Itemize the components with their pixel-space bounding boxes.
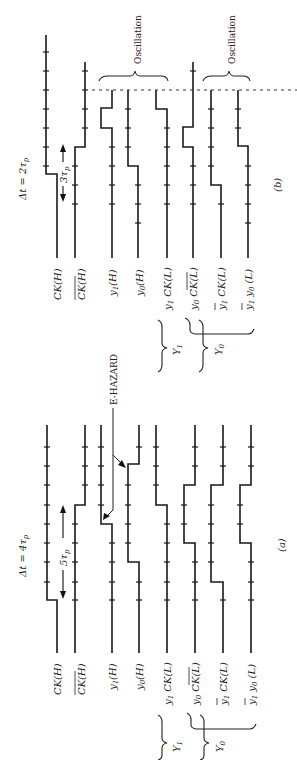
wave-b-y1bary0-l: [238, 90, 248, 258]
wave-b-y1ck-l: [156, 90, 167, 258]
wave-a-ckbar-h: [75, 425, 85, 653]
signal-labels-a: CK(H) CK(H) y1(H) y0(H) y1 CK(L) y0 CK(L…: [52, 662, 259, 706]
delta-t-label-a: Δt = 4τp: [17, 534, 30, 578]
wave-a-ck-h: [47, 425, 57, 653]
svg-text:Y1: Y1: [171, 344, 184, 355]
delta-t-label-b: Δt = 2τp: [17, 157, 30, 201]
wave-b-y1barck-l: [211, 90, 221, 258]
svg-text:y1 y0 (L): y1 y0 (L): [243, 269, 256, 311]
wave-a-y0-h: [128, 425, 139, 653]
svg-text:CK(H): CK(H): [52, 268, 63, 300]
oscillation-label-1: Oscillation: [133, 15, 143, 64]
svg-text:y0 CK(L): y0 CK(L): [190, 662, 203, 706]
panel-a: E-HAZARD 5τp Δt = 4τp (a) CK(H) CK(H) y1…: [17, 354, 287, 760]
wave-a-y1bary0-l: [240, 425, 251, 653]
group-braces-a: Y1 Y0: [158, 713, 256, 760]
wave-a-y1-h: [101, 425, 112, 653]
e-hazard-pointer: E-HAZARD: [103, 354, 126, 520]
svg-text:CK(H): CK(H): [52, 663, 63, 695]
svg-text:Y1: Y1: [171, 741, 184, 752]
wave-b-y1-h: [101, 90, 112, 258]
panel-b: Oscillation Oscillation 3τp Δt = 2τp (b)…: [17, 15, 297, 372]
svg-text:Y0: Y0: [214, 740, 227, 752]
interval-arrow-b: 3τp: [58, 144, 71, 202]
caption-b: (b): [272, 178, 283, 192]
svg-text:CK(H): CK(H): [76, 663, 87, 695]
timing-diagram: Oscillation Oscillation 3τp Δt = 2τp (b)…: [0, 0, 297, 760]
wave-a-y1barck-l: [211, 425, 223, 653]
caption-a: (a): [276, 538, 287, 552]
svg-text:y0(H): y0(H): [134, 663, 147, 691]
wave-a-y0ckbar-l: [184, 425, 195, 653]
group-braces-b: Y1 Y0: [158, 318, 254, 372]
svg-text:3τp: 3τp: [58, 166, 71, 183]
svg-text:y1 CK(L): y1 CK(L): [216, 267, 229, 311]
svg-text:y1 CK(L): y1 CK(L): [162, 267, 175, 311]
svg-text:CK(H): CK(H): [76, 268, 87, 300]
wave-b-y0-h: [128, 90, 138, 258]
wave-b-ckbar-h: [75, 62, 85, 258]
svg-text:y1(H): y1(H): [107, 269, 120, 297]
svg-text:y1 CK(L): y1 CK(L): [218, 662, 231, 706]
oscillation-brace-left: [99, 71, 168, 81]
interval-arrow-a: 5τp: [58, 505, 71, 599]
svg-text:5τp: 5τp: [58, 549, 71, 566]
svg-text:Y0: Y0: [213, 343, 226, 355]
oscillation-brace-right: [203, 71, 250, 81]
svg-text:y0 CK(L): y0 CK(L): [188, 267, 201, 311]
svg-text:y1 y0 (L): y1 y0 (L): [246, 664, 259, 706]
svg-text:y1 CK(L): y1 CK(L): [162, 662, 175, 706]
signal-labels-b: CK(H) CK(H) y1(H) y0(H) y1 CK(L) y0 CK(L…: [52, 267, 256, 311]
svg-text:y1(H): y1(H): [107, 663, 120, 691]
svg-text:y0(H): y0(H): [134, 269, 147, 297]
oscillation-label-2: Oscillation: [227, 15, 237, 64]
svg-text:E-HAZARD: E-HAZARD: [109, 354, 119, 405]
wave-a-y1ck-l: [156, 425, 167, 653]
wave-b-y0ckbar-l: [183, 62, 193, 258]
